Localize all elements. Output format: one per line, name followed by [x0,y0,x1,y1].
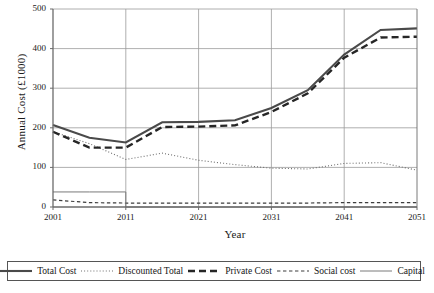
legend-item-discounted-total[interactable]: Discounted Total [80,266,187,276]
legend-swatch-capital-icon [359,266,393,276]
series-line-social-cost [53,200,417,203]
legend-label: Social cost [310,266,359,276]
x-tick-label: 2001 [33,212,73,222]
y-tick-label: 400 [16,43,46,53]
legend-label: Private Cost [221,266,276,276]
y-tick-label: 200 [16,122,46,132]
legend-label: Total Cost [33,266,80,276]
y-tick-label: 500 [16,3,46,13]
x-tick-label: 2031 [251,212,291,222]
legend-item-total-cost[interactable]: Total Cost [0,266,80,276]
gridlines [53,9,417,207]
legend-item-capital[interactable]: Capital [359,266,428,276]
chart-figure: Annual Cost (£1000) Year 010020030040050… [0,0,434,293]
y-tick-label: 100 [16,161,46,171]
legend-swatch-private-cost-icon [187,266,221,276]
x-tick-label: 2011 [106,212,146,222]
series-line-discounted-total [53,132,417,170]
y-tick-label: 300 [16,82,46,92]
chart-legend: Total CostDiscounted TotalPrivate CostSo… [7,261,421,281]
line-chart-canvas [0,0,434,293]
series-line-private-cost [53,37,417,148]
legend-swatch-total-cost-icon [0,266,33,276]
x-tick-label: 2051 [397,212,434,222]
x-axis-title: Year [53,228,417,240]
legend-label: Capital [393,266,428,276]
legend-label: Discounted Total [114,266,187,276]
y-tick-label: 0 [16,201,46,211]
series-line-capital [53,192,417,207]
x-tick-label: 2021 [179,212,219,222]
tick-marks [50,9,417,210]
legend-item-private-cost[interactable]: Private Cost [187,266,276,276]
x-tick-label: 2041 [324,212,364,222]
data-series-group [53,28,417,207]
legend-swatch-social-cost-icon [276,266,310,276]
legend-swatch-discounted-total-icon [80,266,114,276]
legend-item-social-cost[interactable]: Social cost [276,266,359,276]
plot-frame [53,9,417,207]
